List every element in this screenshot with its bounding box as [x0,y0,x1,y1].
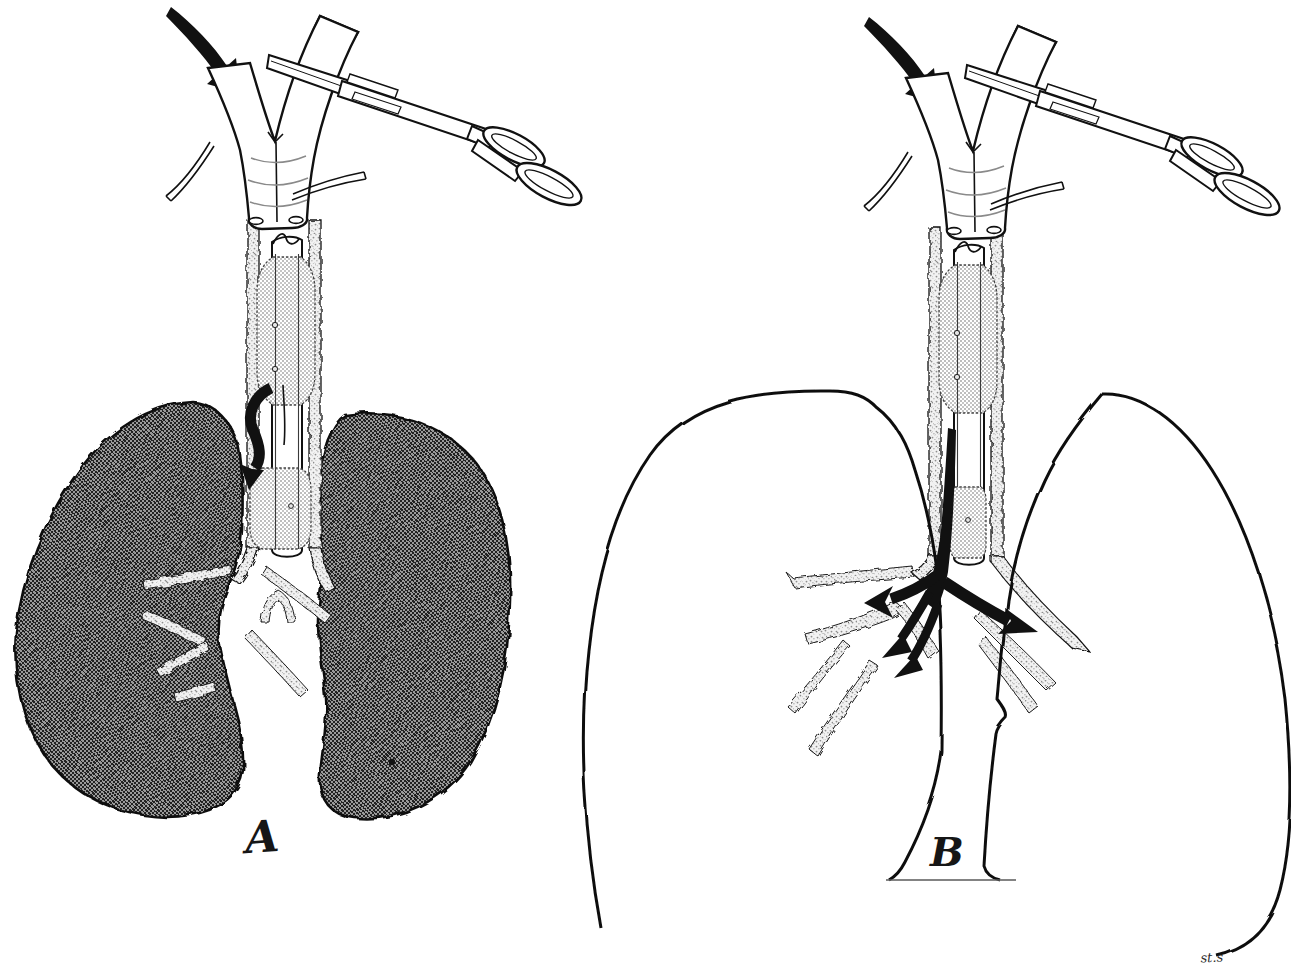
bronchus-band [785,566,914,588]
bronchus-band [805,602,907,644]
lung-marking [389,759,395,765]
panel-a: A [15,7,587,863]
airflow-arrowhead [882,634,912,658]
lung-left-collapsed [15,402,243,817]
cuff-port [289,504,294,509]
figure-canvas: A [0,0,1291,974]
panel-label-a: A [239,810,281,864]
cuff-port [966,518,971,523]
lung-right-collapsed [318,413,510,818]
panel-b: B [583,17,1290,955]
lower-cuff [250,468,311,549]
bronchus-band [245,630,308,697]
lung-left-outline [583,391,942,928]
artist-signature: st.s [1200,949,1224,965]
illustration-svg: A [0,0,1291,974]
panel-label-b: B [929,828,964,875]
lung-right-outline [1102,394,1291,955]
